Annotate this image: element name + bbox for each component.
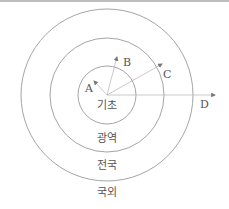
- ring-label-regional: 광역: [97, 132, 117, 145]
- ring-label-overseas: 국외: [97, 186, 117, 199]
- label-a: A: [84, 82, 94, 95]
- label-b: B: [123, 56, 131, 69]
- ring-label-national: 전국: [97, 159, 117, 172]
- ring-label-basic: 기초: [97, 99, 117, 112]
- concentric-diagram: A B C D 기초 광역 전국 국외: [0, 0, 229, 209]
- arrow-a: [94, 81, 107, 95]
- label-d: D: [200, 98, 209, 111]
- arrow-b: [107, 57, 117, 95]
- arrow-c: [107, 64, 162, 95]
- label-c: C: [163, 68, 171, 81]
